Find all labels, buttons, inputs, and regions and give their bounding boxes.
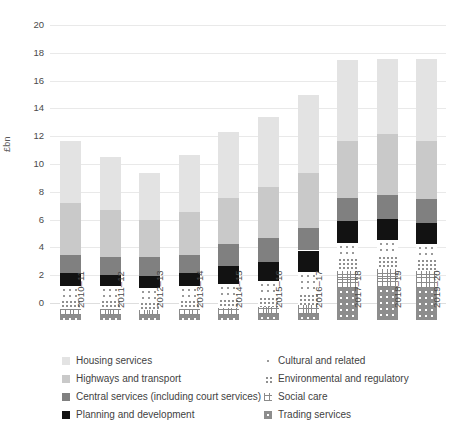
bar-segment (258, 187, 279, 238)
plot-area: £bn 20181614121086420 (0, 0, 451, 320)
legend-swatch-icon (62, 375, 70, 383)
bar-segment (416, 59, 437, 141)
bar-series-group (0, 0, 451, 320)
bar-segment (258, 238, 279, 262)
bar-segment (416, 223, 437, 243)
bar-segment (218, 315, 239, 320)
legend-swatch-icon (264, 411, 272, 419)
legend-item[interactable]: Social care (264, 388, 409, 406)
bar-segment (377, 59, 398, 134)
legend-item[interactable]: Central services (including court servic… (62, 388, 261, 406)
bar-segment (60, 203, 81, 256)
bar-segment (139, 315, 160, 320)
x-tick-label: 2012–13 (154, 270, 165, 308)
legend-swatch-icon (62, 393, 70, 401)
bar-segment (218, 244, 239, 266)
legend-swatch-icon (264, 393, 272, 401)
bar-segment (337, 141, 358, 198)
legend-column-left: Housing servicesHighways and transportCe… (62, 352, 261, 424)
bar-segment (179, 212, 200, 255)
bar-segment (258, 314, 279, 320)
legend-item[interactable]: Highways and transport (62, 370, 261, 388)
legend-label: Central services (including court servic… (76, 392, 261, 402)
bar-segment (179, 155, 200, 212)
legend-item[interactable]: Environmental and regulatory (264, 370, 409, 388)
legend-label: Highways and transport (76, 374, 181, 384)
x-tick-label: 2014–15 (233, 270, 244, 308)
x-tick-label: 2011–12 (115, 271, 126, 308)
bar-segment (298, 314, 319, 320)
chart-legend: Housing servicesHighways and transportCe… (0, 352, 451, 424)
bar-segment (139, 173, 160, 220)
legend-swatch-icon (62, 411, 70, 419)
legend-item[interactable]: Housing services (62, 352, 261, 370)
bar-segment (337, 198, 358, 222)
bar-segment (377, 195, 398, 219)
bar-segment (60, 309, 81, 315)
legend-label: Housing services (76, 356, 152, 366)
legend-label: Trading services (278, 410, 351, 420)
bar-segment (377, 134, 398, 195)
bar-segment (416, 244, 437, 259)
x-tick-label: 2013–14 (194, 270, 205, 308)
bar-segment (139, 220, 160, 258)
bar-segment (60, 315, 81, 320)
x-tick-label: 2019–20 (431, 270, 442, 308)
bar-segment (100, 309, 121, 315)
x-tick-label: 2017–18 (352, 270, 363, 308)
legend-item[interactable]: Cultural and related (264, 352, 409, 370)
bar-segment (298, 173, 319, 229)
x-tick-label: 2015–16 (273, 270, 284, 308)
bar-segment (179, 315, 200, 320)
bar-segment (179, 309, 200, 315)
bar-segment (258, 117, 279, 187)
bar-segment (377, 255, 398, 269)
bar-segment (337, 243, 358, 258)
bar-segment (298, 95, 319, 173)
legend-label: Planning and development (76, 410, 194, 420)
bar-segment (100, 315, 121, 320)
legend-label: Social care (278, 392, 327, 402)
bar-segment (218, 198, 239, 244)
bar-segment (377, 240, 398, 255)
legend-label: Environmental and regulatory (278, 374, 409, 384)
stacked-bar-chart: £bn 20181614121086420 2010–112011–122012… (0, 0, 451, 446)
bar-segment (416, 199, 437, 223)
bar-segment (218, 308, 239, 315)
legend-swatch-icon (264, 357, 272, 365)
bar-segment (60, 141, 81, 203)
legend-item[interactable]: Trading services (264, 406, 409, 424)
legend-label: Cultural and related (278, 356, 365, 366)
legend-swatch-icon (264, 375, 272, 383)
bar-segment (337, 60, 358, 141)
bar-segment (100, 210, 121, 257)
legend-swatch-icon (62, 357, 70, 365)
bar-segment (377, 219, 398, 240)
x-tick-label: 2016–17 (313, 270, 324, 308)
x-tick-label: 2018–19 (392, 270, 403, 308)
x-tick-label: 2010–11 (75, 271, 86, 308)
bar-segment (218, 132, 239, 197)
legend-column-right: Cultural and relatedEnvironmental and re… (264, 352, 409, 424)
bar-segment (298, 251, 319, 273)
legend-item[interactable]: Planning and development (62, 406, 261, 424)
bar-segment (337, 221, 358, 243)
bar-segment (100, 157, 121, 210)
bar-segment (337, 257, 358, 270)
bar-segment (139, 310, 160, 316)
bar-segment (298, 228, 319, 250)
bar-segment (416, 141, 437, 199)
